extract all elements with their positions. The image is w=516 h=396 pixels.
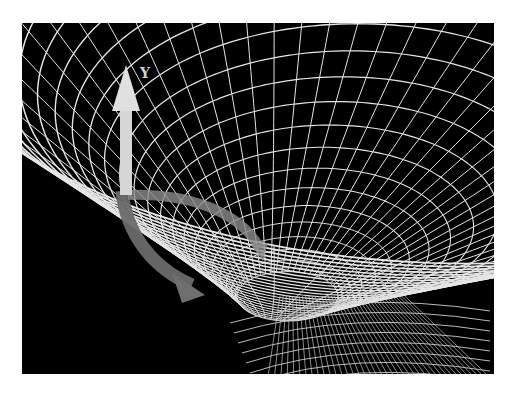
wormhole-wireframe — [22, 23, 494, 374]
y-axis-shaft — [120, 109, 132, 195]
grid-spoke — [282, 23, 404, 272]
grid-spoke — [323, 23, 494, 279]
grid-spoke — [335, 23, 494, 288]
funnel-grid — [22, 23, 494, 321]
grid-spoke — [271, 23, 275, 273]
grid-spoke — [333, 23, 494, 286]
grid-spoke — [327, 23, 494, 281]
grid-spoke — [338, 23, 494, 296]
grid-ring — [22, 23, 494, 270]
grid-spoke — [337, 23, 494, 302]
funnel-throat — [230, 296, 490, 374]
y-axis-label: Y — [140, 65, 150, 81]
throat-line — [268, 296, 280, 374]
grid-spoke — [314, 23, 494, 275]
grid-spoke — [309, 23, 494, 274]
axis-arrows — [112, 65, 268, 303]
figure-panel: Y — [22, 23, 494, 374]
y-axis-arrowhead — [112, 65, 140, 111]
